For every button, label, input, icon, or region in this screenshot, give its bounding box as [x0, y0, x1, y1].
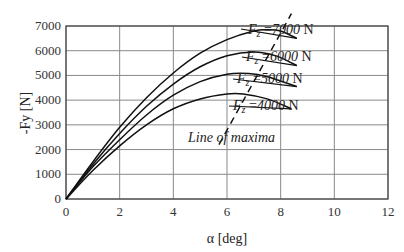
chart: Fz =7000 NFz =6000 NFz =5000 NFz =4000 N… [0, 0, 404, 252]
y-tick-label: 3000 [35, 117, 61, 132]
y-tick-label: 1000 [35, 166, 61, 181]
x-tick-label: 10 [328, 204, 341, 219]
x-tick-label: 2 [116, 204, 123, 219]
x-tick-label: 0 [63, 204, 70, 219]
series-label: Fz =7000 N [247, 22, 314, 39]
x-tick-label: 6 [224, 204, 231, 219]
y-axis-label: -Fy [N] [18, 92, 33, 134]
x-tick-label: 8 [277, 204, 284, 219]
y-tick-label: 5000 [35, 67, 61, 82]
x-tick-label: 12 [382, 204, 395, 219]
y-tick-label: 2000 [35, 142, 61, 157]
y-tick-label: 7000 [35, 18, 61, 33]
y-tick-label: 0 [55, 191, 62, 206]
line-of-maxima-label: Line of maxima [187, 130, 275, 145]
ticks: 02468101201000200030004000500060007000 [35, 18, 395, 219]
x-tick-label: 4 [170, 204, 177, 219]
y-tick-label: 4000 [35, 92, 61, 107]
grid [66, 26, 388, 199]
curves: Fz =7000 NFz =6000 NFz =5000 NFz =4000 N… [66, 14, 314, 199]
y-tick-label: 6000 [35, 43, 61, 58]
x-axis-label: α [deg] [207, 231, 247, 246]
